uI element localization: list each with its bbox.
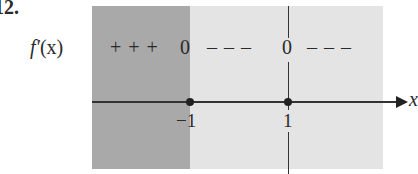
x-axis <box>92 101 400 103</box>
axis-arrow-icon <box>396 96 408 108</box>
critical-point-1 <box>284 98 292 106</box>
vertical-line-at-1 <box>288 6 289 174</box>
axis-label: x <box>409 88 418 111</box>
decreasing-region-shading <box>190 6 383 169</box>
tick-label-minus-1: −1 <box>176 110 196 132</box>
increasing-region-shading <box>92 6 190 169</box>
zero-at-1: 0 <box>282 36 292 59</box>
sign-interval-2: – – – <box>207 36 252 59</box>
zero-at-minus-1: 0 <box>180 36 190 59</box>
critical-point-minus-1 <box>186 98 194 106</box>
problem-number: 12. <box>0 0 19 19</box>
sign-interval-3: – – – <box>307 36 352 59</box>
sign-interval-1: + + + <box>110 36 159 59</box>
derivative-symbol: f′ <box>30 36 40 58</box>
derivative-arg: (x) <box>40 36 63 58</box>
derivative-label: f′(x) <box>30 36 63 59</box>
tick-label-1: 1 <box>283 110 293 132</box>
